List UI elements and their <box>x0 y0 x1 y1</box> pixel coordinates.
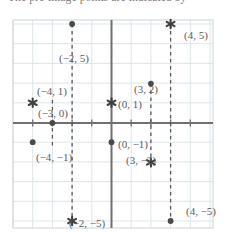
point-dot-neg4-neg1[interactable] <box>30 139 36 145</box>
graph-svg <box>0 0 227 236</box>
point-dot-0-neg1[interactable] <box>109 139 115 145</box>
coordinate-plane-graph <box>0 0 227 236</box>
point-dot-neg2-5[interactable] <box>69 21 75 27</box>
point-dot-neg3-0[interactable] <box>50 120 56 126</box>
point-dot-3-2[interactable] <box>148 81 154 87</box>
point-dot-4-neg5[interactable] <box>168 218 174 224</box>
